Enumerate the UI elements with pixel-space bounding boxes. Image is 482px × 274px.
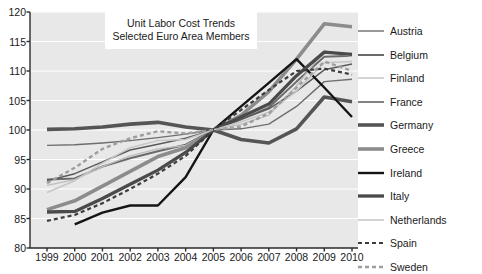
legend-swatch-finland xyxy=(358,73,384,83)
legend-item-belgium[interactable]: Belgium xyxy=(358,44,428,66)
legend-label: France xyxy=(390,96,423,108)
y-tick-label-80: 80 xyxy=(0,243,26,253)
chart-page: 80859095100105110115120 1999200020012002… xyxy=(0,0,482,274)
legend-label: Greece xyxy=(390,143,424,155)
legend-item-italy[interactable]: Italy xyxy=(358,185,409,207)
legend-item-ireland[interactable]: Ireland xyxy=(358,162,422,184)
legend-swatch-spain xyxy=(358,238,384,248)
legend-item-sweden[interactable]: Sweden xyxy=(358,256,428,274)
legend-swatch-sweden xyxy=(358,262,384,272)
legend-label: Finland xyxy=(390,72,424,84)
legend-item-france[interactable]: France xyxy=(358,91,423,113)
legend-swatch-belgium xyxy=(358,50,384,60)
chart-subtitle: Selected Euro Area Members xyxy=(109,30,253,43)
legend-swatch-ireland xyxy=(358,168,384,178)
legend-label: Belgium xyxy=(390,49,428,61)
chart-legend: AustriaBelgiumFinlandFranceGermanyGreece… xyxy=(358,8,482,274)
legend-label: Sweden xyxy=(390,261,428,273)
legend-item-finland[interactable]: Finland xyxy=(358,67,424,89)
legend-swatch-france xyxy=(358,97,384,107)
legend-label: Spain xyxy=(390,237,417,249)
y-tick-label-95: 95 xyxy=(0,155,26,165)
legend-swatch-italy xyxy=(358,191,384,201)
legend-label: Netherlands xyxy=(390,214,447,226)
chart-title-box: Unit Labor Cost Trends Selected Euro Are… xyxy=(105,12,257,49)
chart-title: Unit Labor Cost Trends xyxy=(109,17,253,30)
y-tick-label-85: 85 xyxy=(0,214,26,224)
legend-item-netherlands[interactable]: Netherlands xyxy=(358,209,447,231)
y-tick-label-100: 100 xyxy=(0,125,26,135)
legend-swatch-netherlands xyxy=(358,215,384,225)
y-tick-label-115: 115 xyxy=(0,37,26,47)
y-tick-label-110: 110 xyxy=(0,66,26,76)
legend-swatch-greece xyxy=(358,144,384,154)
y-tick-label-90: 90 xyxy=(0,184,26,194)
legend-label: Ireland xyxy=(390,167,422,179)
legend-item-austria[interactable]: Austria xyxy=(358,20,423,42)
legend-item-germany[interactable]: Germany xyxy=(358,114,433,136)
legend-swatch-austria xyxy=(358,26,384,36)
legend-label: Austria xyxy=(390,25,423,37)
legend-item-greece[interactable]: Greece xyxy=(358,138,424,160)
y-tick-label-105: 105 xyxy=(0,96,26,106)
legend-label: Italy xyxy=(390,190,409,202)
legend-label: Germany xyxy=(390,119,433,131)
y-tick-label-120: 120 xyxy=(0,7,26,17)
legend-item-spain[interactable]: Spain xyxy=(358,232,417,254)
legend-swatch-germany xyxy=(358,120,384,130)
